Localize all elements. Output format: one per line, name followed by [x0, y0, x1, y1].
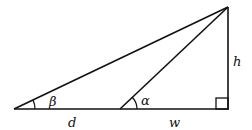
label-w: w: [169, 115, 180, 130]
label-h: h: [233, 54, 241, 69]
label-alpha: α: [141, 93, 150, 108]
hypotenuse-outer: [14, 7, 228, 109]
label-beta: β: [48, 94, 57, 109]
label-d: d: [68, 115, 76, 130]
beta-arc: [33, 100, 35, 109]
triangle-diagram: β α h d w: [0, 0, 252, 130]
hypotenuse-inner: [120, 7, 228, 109]
right-angle-marker: [216, 98, 228, 109]
alpha-arc: [132, 97, 137, 109]
